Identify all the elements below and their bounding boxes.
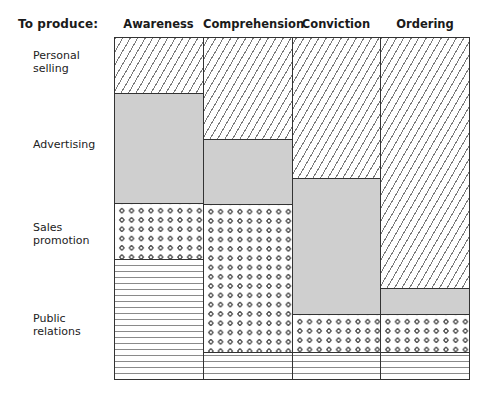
column-ordering: [381, 38, 469, 379]
row-header-title: To produce:: [18, 17, 98, 31]
segment-personal-selling: [293, 38, 380, 179]
segment-public-relations: [293, 353, 380, 379]
column-header-awareness: Awareness: [114, 17, 203, 31]
column-header-ordering: Ordering: [380, 17, 470, 31]
row-label-line: Advertising: [33, 138, 111, 151]
row-label-personal-selling: Personal selling: [33, 49, 111, 75]
column-header-conviction: Conviction: [292, 17, 380, 31]
segment-sales-promotion: [381, 315, 469, 353]
row-label-line: Sales: [33, 221, 111, 234]
segment-public-relations: [381, 353, 469, 379]
segment-public-relations: [204, 353, 292, 379]
row-label-advertising: Advertising: [33, 138, 111, 151]
segment-advertising: [381, 289, 469, 315]
column-conviction: [293, 38, 381, 379]
row-label-sales-promotion: Sales promotion: [33, 221, 111, 247]
column-awareness: [115, 38, 204, 379]
column-comprehension: [204, 38, 293, 379]
segment-personal-selling: [115, 38, 203, 94]
segment-sales-promotion: [293, 315, 380, 353]
row-label-line: Personal: [33, 49, 111, 62]
segment-advertising: [115, 94, 203, 204]
row-label-line: selling: [33, 62, 111, 75]
row-label-public-relations: Public relations: [33, 312, 111, 338]
row-label-line: promotion: [33, 234, 111, 247]
segment-public-relations: [115, 260, 203, 379]
segment-advertising: [293, 179, 380, 315]
segment-sales-promotion: [115, 204, 203, 260]
row-label-line: relations: [33, 325, 111, 338]
stacked-bar-chart: [114, 37, 470, 380]
row-label-line: Public: [33, 312, 111, 325]
segment-personal-selling: [204, 38, 292, 140]
segment-personal-selling: [381, 38, 469, 289]
column-header-comprehension: Comprehension: [203, 17, 292, 31]
segment-advertising: [204, 140, 292, 205]
segment-sales-promotion: [204, 205, 292, 353]
